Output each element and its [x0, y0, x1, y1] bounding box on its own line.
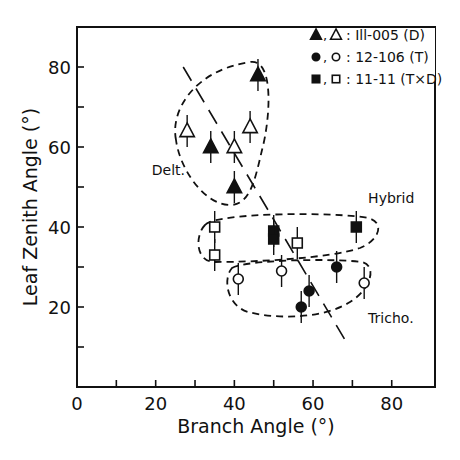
group-annotations: Delt.HybridTricho. [152, 162, 415, 326]
x-axis-label: Branch Angle (°) [177, 415, 335, 437]
data-point [227, 171, 241, 203]
open-square-marker [292, 238, 302, 248]
group-envelopes [175, 62, 378, 317]
data-point [292, 227, 302, 259]
x-axis: 020406080 [71, 380, 403, 414]
open-square-marker [210, 222, 220, 232]
x-tick-label: 80 [380, 393, 403, 414]
y-tick-label: 40 [48, 217, 71, 238]
filled-triangle-marker [227, 179, 241, 193]
group-label: Delt. [152, 162, 185, 178]
filled-triangle-marker [204, 139, 218, 153]
legend-separator: , [323, 50, 327, 65]
data-point [233, 263, 243, 295]
data-point [296, 291, 306, 323]
open-circle-marker [233, 274, 243, 284]
y-axis-label: Leaf Zenith Angle (°) [19, 108, 41, 306]
data-point [204, 131, 218, 163]
x-tick-label: 20 [144, 393, 167, 414]
filled-square-marker [269, 234, 279, 244]
y-axis: 20406080 [48, 57, 84, 347]
data-points [180, 59, 369, 323]
regression-line [183, 67, 344, 339]
data-point [332, 251, 342, 283]
filled-circle-marker [312, 53, 319, 60]
legend: ,: Ill-005 (D),: 12-106 (T),: 11-11 (T×D… [300, 0, 442, 87]
legend-label: : 11-11 (T×D) [346, 71, 442, 87]
filled-square-marker [312, 75, 319, 82]
filled-circle-marker [296, 302, 306, 312]
data-point [251, 59, 265, 91]
open-triangle-marker [243, 119, 257, 133]
open-circle-marker [277, 266, 287, 276]
open-triangle-marker [227, 139, 241, 153]
x-tick-label: 0 [71, 393, 82, 414]
open-square-marker [332, 75, 339, 82]
group-label: Tricho. [367, 310, 413, 326]
x-tick-label: 40 [223, 393, 246, 414]
legend-separator: , [323, 28, 327, 43]
x-tick-label: 60 [302, 393, 325, 414]
filled-circle-marker [304, 286, 314, 296]
legend-label: : 12-106 (T) [346, 49, 429, 65]
y-tick-label: 20 [48, 297, 71, 318]
filled-square-marker [351, 222, 361, 232]
data-point [210, 211, 220, 243]
data-point [243, 111, 257, 143]
regression-line-path [183, 67, 344, 339]
filled-circle-marker [332, 262, 342, 272]
y-tick-label: 60 [48, 137, 71, 158]
data-point [180, 115, 194, 147]
legend-label: : Ill-005 (D) [346, 27, 425, 43]
open-circle-marker [332, 53, 339, 60]
legend-separator: , [323, 72, 327, 87]
open-square-marker [210, 250, 220, 260]
open-triangle-marker [180, 123, 194, 137]
open-circle-marker [359, 278, 369, 288]
y-tick-label: 80 [48, 57, 71, 78]
scatter-chart: 020406080 20406080 Delt.HybridTricho. ,:… [0, 0, 460, 460]
data-point [210, 239, 220, 271]
group-label: Hybrid [368, 190, 414, 206]
data-point [227, 131, 241, 163]
data-point [304, 275, 314, 307]
